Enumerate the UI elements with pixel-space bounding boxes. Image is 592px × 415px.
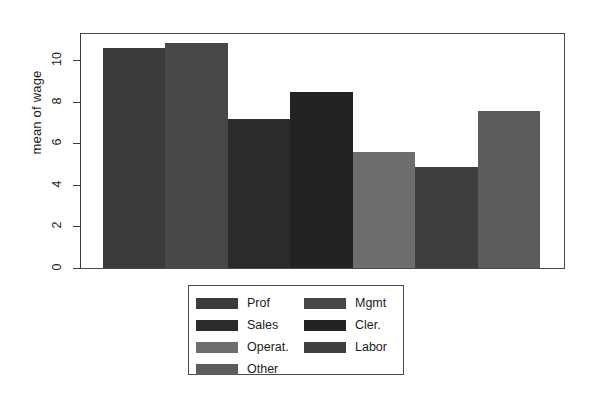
bar-mgmt[interactable] [165, 43, 227, 268]
legend-label: Operat. [247, 340, 289, 354]
legend-column-right: MgmtCler.Labor [304, 292, 387, 358]
legend-item-labor[interactable]: Labor [304, 336, 387, 358]
legend-label: Other [247, 362, 278, 376]
legend-swatch [304, 298, 346, 309]
legend-swatch [196, 320, 238, 331]
bar-prof[interactable] [103, 48, 165, 268]
bar-sales[interactable] [228, 119, 290, 268]
y-tick-mark [73, 60, 80, 61]
y-tick-label: 0 [50, 254, 64, 280]
y-tick-label: 6 [50, 129, 64, 155]
bar-labor[interactable] [415, 167, 477, 268]
y-tick-label: 4 [50, 171, 64, 197]
legend-swatch [304, 320, 346, 331]
legend-swatch [196, 298, 238, 309]
legend-label: Sales [247, 318, 278, 332]
legend-item-cler[interactable]: Cler. [304, 314, 387, 336]
bar-cler[interactable] [290, 92, 352, 268]
legend-swatch [196, 342, 238, 353]
legend-column-left: ProfSalesOperat.Other [196, 292, 289, 380]
legend-item-mgmt[interactable]: Mgmt [304, 292, 387, 314]
y-tick-mark [73, 268, 80, 269]
y-tick-label: 8 [50, 88, 64, 114]
legend-label: Labor [355, 340, 387, 354]
y-tick-label: 10 [50, 46, 64, 72]
bar-chart-figure: mean of wage 0246810 ProfSalesOperat.Oth… [0, 0, 592, 415]
y-tick-mark [73, 102, 80, 103]
y-tick-mark [73, 226, 80, 227]
y-tick-mark [73, 143, 80, 144]
legend-item-operat[interactable]: Operat. [196, 336, 289, 358]
y-axis-label: mean of wage [29, 33, 44, 193]
bar-operat[interactable] [353, 152, 415, 268]
legend-item-sales[interactable]: Sales [196, 314, 289, 336]
legend-label: Prof [247, 296, 270, 310]
legend-label: Cler. [355, 318, 381, 332]
legend-label: Mgmt [355, 296, 386, 310]
legend-item-other[interactable]: Other [196, 358, 289, 380]
legend-swatch [196, 364, 238, 375]
legend-swatch [304, 342, 346, 353]
y-axis-line [80, 33, 81, 269]
legend-box: ProfSalesOperat.Other MgmtCler.Labor [188, 285, 404, 375]
bar-other[interactable] [478, 111, 540, 268]
y-tick-mark [73, 185, 80, 186]
legend-item-prof[interactable]: Prof [196, 292, 289, 314]
y-tick-label: 2 [50, 212, 64, 238]
